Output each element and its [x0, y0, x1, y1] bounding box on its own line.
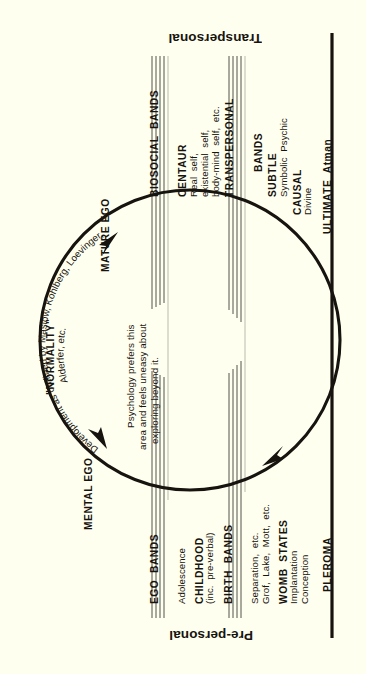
arc-label-normality: "NORMALITY" — [45, 319, 56, 395]
centaur-item-2: body-mind self, etc. — [211, 106, 222, 197]
band-label-birth-bands: BIRTH BANDS — [223, 524, 234, 604]
band-label-biosocial-bands: BIOSOCIAL BANDS — [149, 90, 160, 197]
band-sublabel-transpersonal-bands: BANDS — [253, 133, 264, 172]
zone-label-prepersonal: Pre-personal — [169, 628, 253, 643]
psychology-note-line-2: area and feels uneasy about — [138, 324, 149, 450]
zone-label-transpersonal: Transpersonal — [168, 31, 262, 46]
arrow-lower-right — [262, 446, 283, 466]
psychology-note-line-3: exploring beyond it. — [150, 357, 161, 444]
band-label-subtle: SUBTLE — [267, 153, 278, 197]
band-label-transpersonal-bands: TRANSPERSONAL — [224, 98, 235, 197]
arc-label-mental-ego: MENTAL EGO — [83, 458, 94, 530]
band-label-centaur: CENTAUR — [177, 144, 188, 197]
diagram-canvas: Development as outlined by Maslow, Kohlb… — [0, 0, 366, 674]
causal-item-0: Divine — [303, 188, 314, 215]
cycle-arrowheads — [88, 232, 283, 466]
band-sublabel-childhood: (inc. pre-verbal) — [205, 532, 216, 604]
birth-bands-item-1: Grof, Lake, Mott, etc. — [261, 504, 272, 604]
band-label-pleroma: PLEROMA — [322, 537, 333, 592]
band-label-ultimate: ULTIMATE Atman — [322, 139, 333, 234]
psychology-note-line-1: Psychology prefers this — [126, 324, 137, 428]
band-label-adolescence: Adolescence — [177, 548, 188, 604]
development-curve-line2: Alderfer, etc. — [54, 326, 69, 384]
subtle-item-0: Symbolic Psychic — [279, 118, 290, 197]
arc-label-mature-ego: MATURE EGO — [100, 198, 111, 272]
development-cycle-circle — [40, 190, 340, 490]
womb-states-item-1: Conception — [300, 554, 311, 604]
band-label-ego-bands: EGO BANDS — [149, 534, 160, 604]
